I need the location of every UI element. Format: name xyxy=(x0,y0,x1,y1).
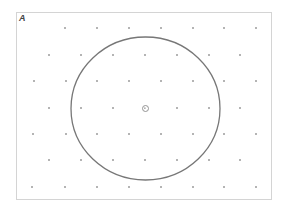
lattice-point xyxy=(80,159,82,161)
lattice-points xyxy=(31,27,257,188)
lattice-point xyxy=(48,159,50,161)
lattice-point xyxy=(208,159,210,161)
center-marker-icon xyxy=(143,106,149,112)
lattice-point xyxy=(176,107,178,109)
lattice-point xyxy=(208,107,210,109)
lattice-point xyxy=(80,107,82,109)
lattice-point xyxy=(192,27,194,29)
boundary-circle xyxy=(71,37,220,180)
lattice-point xyxy=(192,186,194,188)
lattice-point xyxy=(112,54,114,56)
lattice-point xyxy=(128,133,130,135)
lattice-diagram xyxy=(0,0,284,206)
lattice-point xyxy=(96,27,98,29)
lattice-point xyxy=(65,133,67,135)
lattice-point xyxy=(80,54,82,56)
lattice-point xyxy=(255,27,257,29)
lattice-point xyxy=(192,133,194,135)
lattice-point xyxy=(255,186,257,188)
lattice-point xyxy=(65,80,67,82)
lattice-point xyxy=(64,186,66,188)
lattice-point xyxy=(96,133,98,135)
lattice-point xyxy=(33,80,35,82)
lattice-point xyxy=(112,159,114,161)
lattice-point xyxy=(223,27,225,29)
lattice-point xyxy=(239,107,241,109)
lattice-point xyxy=(160,80,162,82)
lattice-point xyxy=(192,80,194,82)
lattice-point xyxy=(48,54,50,56)
lattice-point xyxy=(112,107,114,109)
lattice-point xyxy=(239,54,241,56)
lattice-point xyxy=(48,107,50,109)
lattice-point xyxy=(160,27,162,29)
lattice-point xyxy=(255,80,257,82)
lattice-point xyxy=(160,186,162,188)
lattice-point xyxy=(239,159,241,161)
lattice-point xyxy=(96,186,98,188)
lattice-point xyxy=(128,80,130,82)
lattice-point xyxy=(223,133,225,135)
lattice-point xyxy=(176,159,178,161)
lattice-point xyxy=(223,186,225,188)
lattice-point xyxy=(64,27,66,29)
lattice-point xyxy=(32,133,34,135)
center-point xyxy=(144,107,145,108)
lattice-point xyxy=(128,186,130,188)
lattice-point xyxy=(144,54,146,56)
lattice-point xyxy=(208,54,210,56)
lattice-point xyxy=(144,159,146,161)
lattice-point xyxy=(255,133,257,135)
lattice-point xyxy=(176,54,178,56)
lattice-point xyxy=(96,80,98,82)
lattice-point xyxy=(128,27,130,29)
lattice-point xyxy=(223,80,225,82)
lattice-point xyxy=(31,186,33,188)
lattice-point xyxy=(160,133,162,135)
